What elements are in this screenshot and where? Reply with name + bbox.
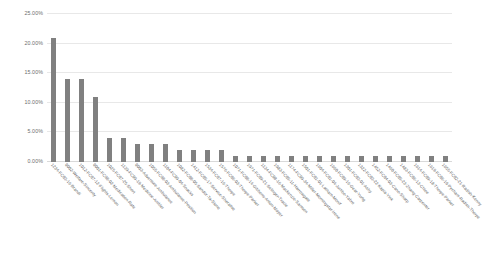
x-label-slot: 1660-FC09-16-Gear-Yurtg — [326, 163, 340, 263]
x-label-slot: 1174-FC09-34-Miller-Morningstar-Irene — [284, 163, 298, 263]
x-label-slot: 1012-FC07-12-Flights-Lemon — [75, 163, 89, 263]
bar[interactable] — [93, 97, 98, 162]
x-label-slot: 1655-FC02-21-Radish-Kenny — [438, 163, 452, 263]
x-label-slot: 1452-FC04-03-Cano-Sharp — [368, 163, 382, 263]
x-label-slot: 1983-FC05-11-Harrowgate — [271, 163, 285, 263]
bar[interactable] — [401, 156, 406, 162]
x-label-slot: 1604-FC01-04-Jumbo-Yabro — [312, 163, 326, 263]
y-axis-tick-label: 15.00% — [24, 69, 43, 75]
bar-slot — [396, 14, 410, 162]
bar[interactable] — [79, 79, 84, 162]
bar-slot — [354, 14, 368, 162]
x-label-slot: 1134-FC08-16-Mackenzie-Samson — [257, 163, 271, 263]
y-axis-tick-label: 10.00% — [24, 99, 43, 105]
bar-slot — [382, 14, 396, 162]
bar[interactable] — [51, 38, 56, 162]
x-label-slot: 1576-FC06-03-Thorpe-Parker — [215, 163, 229, 263]
bar[interactable] — [345, 156, 350, 162]
bar[interactable] — [275, 156, 280, 162]
x-label-slot: 0001-FC98-02-Medication-Rate — [89, 163, 103, 263]
bar[interactable] — [135, 144, 140, 162]
bar-slot — [438, 14, 452, 162]
x-label-slot: 1619-FC06-19-Pycham-Radish-Thorpe — [424, 163, 438, 263]
bar[interactable] — [443, 156, 448, 162]
bar[interactable] — [65, 79, 70, 162]
x-label-slot: 1614-FC09-18-Thorpe-Parker — [410, 163, 424, 263]
bar-slot — [187, 14, 201, 162]
bar-slot — [89, 14, 103, 162]
bar[interactable] — [121, 138, 126, 162]
bar[interactable] — [359, 156, 364, 162]
x-label-slot: 1483-FC06-13-Chloe — [396, 163, 410, 263]
x-label-slot: 1534-FC07-16-Thorpe — [201, 163, 215, 263]
y-axis-tick-label: 0.00% — [27, 158, 43, 164]
bar[interactable] — [205, 150, 210, 162]
bar-slot — [312, 14, 326, 162]
bar-slot — [47, 14, 61, 162]
bar-slot — [257, 14, 271, 162]
x-label-slot: 1071-FC08-14-Gibbons-Anton-Mayer — [229, 163, 243, 263]
bar[interactable] — [149, 144, 154, 162]
bar[interactable] — [317, 156, 322, 162]
bar-slot — [243, 14, 257, 162]
bar[interactable] — [191, 150, 196, 162]
x-label-slot: 0003-Adventure-Ambulance — [131, 163, 145, 263]
x-label-slot: 0002-Welfare-Sincerity — [61, 163, 75, 263]
bar-slot — [117, 14, 131, 162]
bar-slot — [159, 14, 173, 162]
x-label-slot: 1971-FC09-21-Selinger-Tracie — [243, 163, 257, 263]
bar-slot — [284, 14, 298, 162]
bar-slot — [75, 14, 89, 162]
bar[interactable] — [233, 156, 238, 162]
bar-slot — [410, 14, 424, 162]
bar-slot — [298, 14, 312, 162]
x-label-slot: 1501-FC01-01-Latham-Monif — [298, 163, 312, 263]
bar-slot — [201, 14, 215, 162]
bar-slot — [326, 14, 340, 162]
bar[interactable] — [289, 156, 294, 162]
bar-slot — [215, 14, 229, 162]
bar-slot — [61, 14, 75, 162]
bar-slot — [103, 14, 117, 162]
plot-area: 0.00%5.00%10.00%15.00%20.00%25.00% — [47, 14, 452, 162]
x-label-slot: 1055-FC98-03-Ambulance-Position — [145, 163, 159, 263]
x-label-slot: 1104-FC09-04-Snacks — [159, 163, 173, 263]
x-label-slot: 1082-FC08-05-Sandor-Ta-Stone — [173, 163, 187, 263]
x-label-slot: 1460-FC05-23-Zhang-Carpenter — [382, 163, 396, 263]
y-axis-tick-label: 20.00% — [24, 40, 43, 46]
bar[interactable] — [177, 150, 182, 162]
x-label-slot: 1139-FC09-19-Medicine-Ambler — [117, 163, 131, 263]
x-label-slot: 1234-FC03-16-Brandi — [47, 163, 61, 263]
bar-slot — [340, 14, 354, 162]
x-label-slot: 1412-FC05-17-Service-Sherative — [187, 163, 201, 263]
bar[interactable] — [415, 156, 420, 162]
bar[interactable] — [107, 138, 112, 162]
y-axis-tick-label: 25.00% — [24, 10, 43, 16]
x-axis-labels: 1234-FC03-16-Brandi0002-Welfare-Sincerit… — [47, 163, 452, 263]
bar-slot — [229, 14, 243, 162]
bar-slot — [131, 14, 145, 162]
bar[interactable] — [247, 156, 252, 162]
bar-slot — [271, 14, 285, 162]
x-label-slot: 1322-FC03-22-Kapia-Yink — [354, 163, 368, 263]
bar[interactable] — [373, 156, 378, 162]
bar[interactable] — [331, 156, 336, 162]
bar[interactable] — [219, 150, 224, 162]
bar-slot — [424, 14, 438, 162]
bar[interactable] — [303, 156, 308, 162]
x-label-slot: 1301-FC03-01-Ashy — [340, 163, 354, 263]
y-axis-tick-label: 5.00% — [27, 128, 43, 134]
bar[interactable] — [163, 144, 168, 162]
bar[interactable] — [387, 156, 392, 162]
bar-slot — [368, 14, 382, 162]
x-label-slot: 1025-FC07-25-Short — [103, 163, 117, 263]
bar-slot — [145, 14, 159, 162]
bar-slot — [173, 14, 187, 162]
bar[interactable] — [429, 156, 434, 162]
bar-series — [47, 14, 452, 162]
